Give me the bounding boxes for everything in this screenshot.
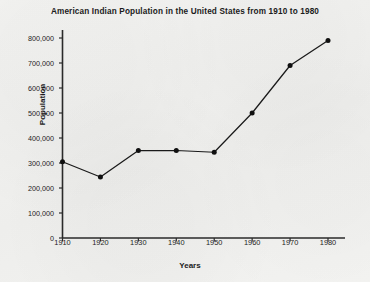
data-point: 1930: 350,000 xyxy=(136,148,141,153)
plot-area: 1910: 305,0001920: 244,0001930: 350,0001… xyxy=(0,0,370,282)
data-point-markers: 1910: 305,0001920: 244,0001930: 350,0001… xyxy=(60,38,331,180)
line-chart: American Indian Population in the United… xyxy=(0,0,370,282)
data-point: 1980: 790,000 xyxy=(326,38,331,43)
data-point: 1940: 350,000 xyxy=(174,148,179,153)
data-point: 1910: 305,000 xyxy=(60,159,65,164)
data-point: 1970: 690,000 xyxy=(288,63,293,68)
axis-lines xyxy=(63,30,346,238)
data-point: 1920: 244,000 xyxy=(98,175,103,180)
data-point: 1950: 343,000 xyxy=(212,150,217,155)
data-point: 1960: 500,000 xyxy=(250,111,255,116)
data-series-line xyxy=(63,41,329,178)
